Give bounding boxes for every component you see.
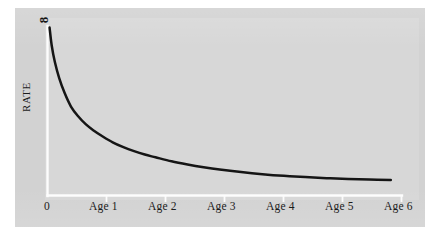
- figure-container: 8 RATE 0 Age 1 Age 2 Age 3 Age 4 Age 5 A…: [0, 0, 437, 237]
- x-tick-label-age-3: Age 3: [207, 200, 236, 212]
- x-tick-label-age-1: Age 1: [89, 200, 118, 212]
- x-tick-label-age-2: Age 2: [148, 200, 177, 212]
- x-tick-label-age-5: Age 5: [325, 200, 354, 212]
- x-tick-label-age-4: Age 4: [266, 200, 295, 212]
- x-tick-label-0: 0: [44, 200, 50, 212]
- y-axis-max-label: 8: [36, 17, 52, 24]
- y-axis-title: RATE: [20, 82, 32, 112]
- rate-decay-curve: [50, 28, 391, 181]
- x-tick-label-age-6: Age 6: [384, 200, 413, 212]
